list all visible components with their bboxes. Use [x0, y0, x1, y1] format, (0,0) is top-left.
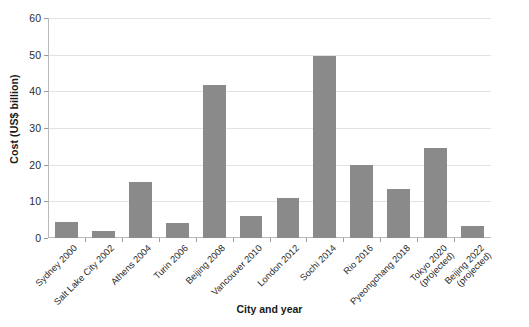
bar — [92, 231, 115, 238]
bar — [350, 165, 373, 238]
y-tick-label-30: 30 — [29, 122, 41, 134]
y-tick-mark-50 — [44, 55, 48, 56]
bar — [240, 216, 263, 238]
y-tick-mark-40 — [44, 91, 48, 92]
y-axis-title: Cost (US$ billion) — [2, 0, 26, 238]
x-tick-label-line1: Turin 2006 — [152, 243, 190, 281]
bar — [55, 222, 78, 239]
y-tick-mark-60 — [44, 18, 48, 19]
x-tick-label: Sochi 2014 — [298, 243, 338, 283]
y-tick-label-50: 50 — [29, 49, 41, 61]
bar — [166, 223, 189, 238]
plot-area: 0102030405060 — [48, 18, 491, 238]
y-tick-label-20: 20 — [29, 159, 41, 171]
bar — [387, 189, 410, 238]
y-axis-title-text: Cost (US$ billion) — [8, 74, 20, 163]
gridline-50 — [48, 55, 491, 56]
bar — [129, 182, 152, 238]
x-axis-title: City and year — [48, 303, 491, 315]
y-tick-label-10: 10 — [29, 195, 41, 207]
x-tick-label: Turin 2006 — [152, 243, 191, 282]
bar — [461, 226, 484, 238]
y-tick-label-40: 40 — [29, 85, 41, 97]
bar — [277, 198, 300, 238]
bar — [203, 85, 226, 238]
gridline-40 — [48, 91, 491, 92]
y-tick-mark-30 — [44, 128, 48, 129]
y-tick-mark-10 — [44, 201, 48, 202]
x-tick-label-line1: Sochi 2014 — [298, 243, 338, 283]
gridline-30 — [48, 128, 491, 129]
x-tick-label: Rio 2016 — [341, 243, 375, 277]
y-tick-label-0: 0 — [35, 232, 41, 244]
bar-chart-figure: Cost (US$ billion) 0102030405060 Sydney … — [0, 0, 529, 327]
y-tick-label-60: 60 — [29, 12, 41, 24]
y-axis-line — [48, 18, 49, 238]
bar — [424, 148, 447, 238]
y-tick-mark-20 — [44, 165, 48, 166]
gridline-60 — [48, 18, 491, 19]
bar — [313, 56, 336, 238]
x-tick-label-line1: Rio 2016 — [341, 243, 374, 276]
x-axis-tick-labels: Sydney 2000Salt Lake City 2002Athens 200… — [48, 238, 491, 300]
